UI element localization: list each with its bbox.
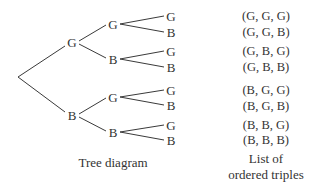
node-level2-gg: G	[108, 18, 117, 31]
triple-bgb: (B, G, B)	[243, 100, 290, 113]
triple-ggg: (G, G, G)	[242, 10, 290, 23]
node-level1-g: G	[67, 36, 76, 49]
edge-B-G	[79, 98, 106, 114]
node-level2-gb: B	[109, 53, 118, 66]
tree-diagram-caption: Tree diagram	[78, 155, 147, 171]
edge-G-B	[79, 44, 106, 58]
triples-caption-line2: ordered triples	[228, 167, 303, 183]
node-level2-bb: B	[109, 126, 118, 139]
triple-bgg: (B, G, G)	[242, 84, 289, 97]
node-level3-bgb: B	[167, 99, 176, 112]
node-level3-bbg: G	[166, 119, 175, 132]
node-level3-bbb: B	[167, 134, 176, 147]
edge-root-G	[18, 46, 65, 77]
triple-bbb: (B, B, B)	[243, 134, 289, 147]
edge-B-B	[79, 117, 106, 131]
triples-caption-line1: List of	[249, 151, 283, 167]
triple-gbb: (G, B, B)	[243, 61, 290, 74]
node-level3-ggb: B	[167, 26, 176, 39]
triple-bbg: (B, B, G)	[243, 119, 290, 132]
node-level3-gbb: B	[167, 61, 176, 74]
edge-root-B	[18, 77, 65, 112]
node-level3-gbg: G	[166, 45, 175, 58]
node-level3-ggg: G	[166, 10, 175, 23]
node-level3-bgg: G	[166, 84, 175, 97]
edge-G-G	[79, 25, 106, 41]
triple-ggb: (G, G, B)	[242, 26, 289, 39]
node-level2-bg: G	[108, 91, 117, 104]
triple-gbg: (G, B, G)	[242, 45, 289, 58]
node-level1-b: B	[68, 109, 77, 122]
